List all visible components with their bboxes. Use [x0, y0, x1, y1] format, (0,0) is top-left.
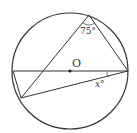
circle-figure [0, 0, 137, 133]
angle-x-label: x° [95, 80, 105, 89]
geometry-diagram: O 75° x° [0, 0, 137, 133]
center-label: O [72, 58, 81, 69]
angle-75-label: 75° [80, 27, 96, 36]
chord-lowerleft-right [21, 71, 128, 98]
angle-arc-top [83, 23, 95, 25]
